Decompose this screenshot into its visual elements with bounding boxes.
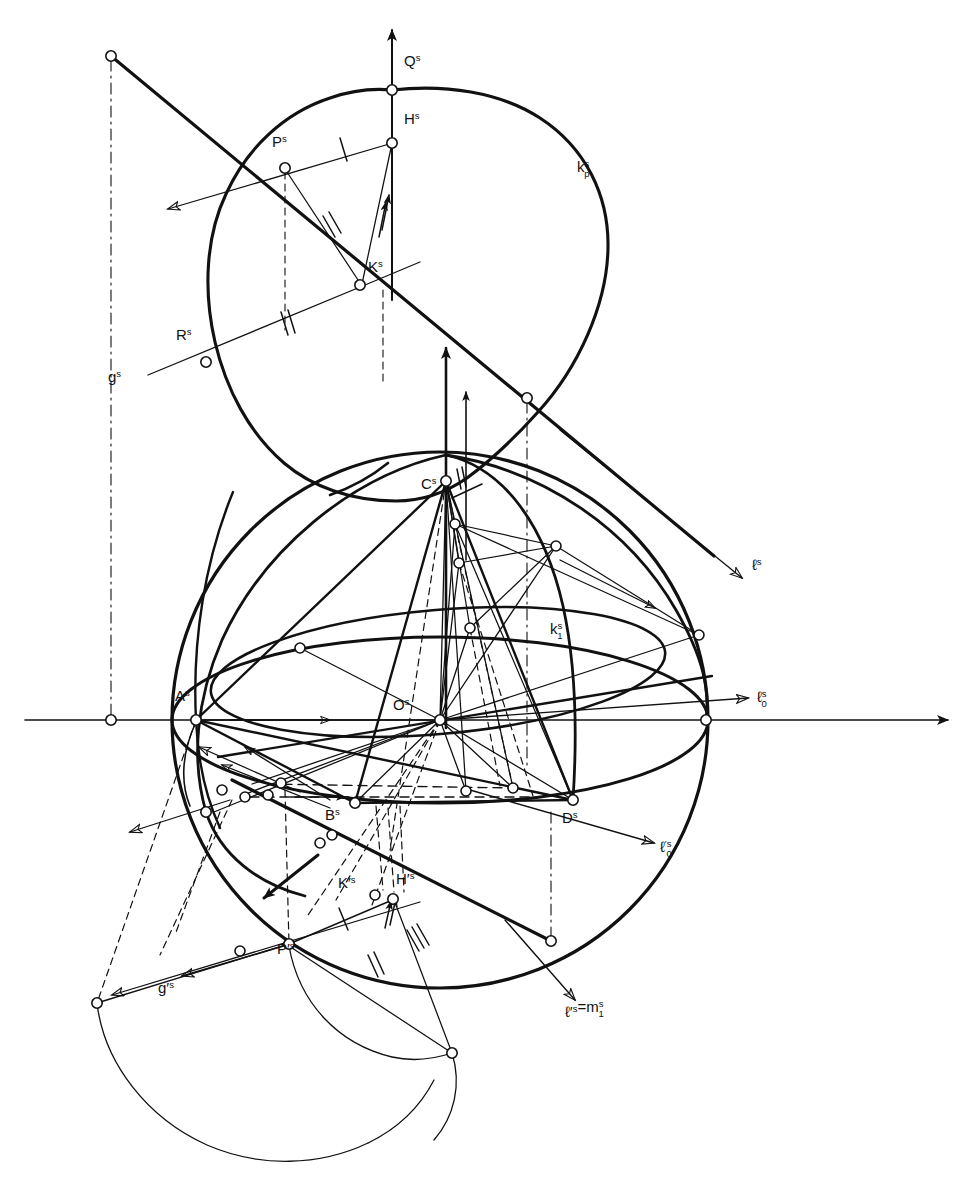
- point-q3: [276, 778, 286, 788]
- meridian-great-circle-left: [198, 455, 446, 812]
- label-lp-s-eq-m1: ℓ′s=ms1: [565, 998, 604, 1020]
- point-gpEnd: [546, 936, 556, 946]
- fan-C-11: [455, 524, 573, 800]
- label-Kp-s: K′s: [338, 874, 356, 891]
- arc-lower-outer: [97, 1003, 368, 1161]
- point-q7: [201, 807, 211, 817]
- arc-lower-inner: [289, 946, 452, 1060]
- point-q2: [461, 786, 471, 796]
- tick-triple-lower-b: [412, 927, 424, 948]
- point-B: [350, 798, 360, 808]
- label-D-s: Ds: [562, 809, 578, 826]
- point-r2: [694, 630, 704, 640]
- label-H-s: Hs: [404, 110, 420, 127]
- hatch-marks-at-C: [457, 467, 466, 489]
- line-l0-s-thick: [218, 676, 712, 757]
- point-O: [435, 715, 445, 725]
- arrow-HK-direction: [382, 195, 389, 230]
- meridian-great-circle-right: [446, 455, 707, 720]
- hidden-12: [376, 806, 383, 890]
- point-m1: [295, 643, 305, 653]
- point-P: [280, 163, 290, 173]
- label-Hp-s: H′s: [396, 870, 415, 887]
- point-C: [441, 476, 451, 486]
- label-l0p-s: ℓ′s0: [660, 838, 672, 859]
- point-c3: [465, 623, 475, 633]
- point-D: [568, 795, 578, 805]
- hidden-13: [388, 808, 394, 892]
- point-q4: [263, 790, 273, 800]
- label-O-s: Os: [393, 696, 410, 713]
- arc-left-lens: [184, 722, 196, 806]
- edge-C-B: [355, 481, 446, 803]
- label-A-s: As: [175, 687, 190, 704]
- tick-double-RK-b: [288, 310, 295, 333]
- label-l0-s: ℓs0: [757, 688, 767, 709]
- label-l-s: ℓs: [752, 556, 762, 573]
- point-q1: [508, 783, 518, 793]
- label-Pp-s: P′s: [277, 940, 295, 957]
- label-R-s: Rs: [176, 326, 192, 343]
- point-c1: [450, 519, 460, 529]
- tick-triple-lower-c: [417, 924, 429, 945]
- label-C-s: Cs: [421, 475, 437, 492]
- point-Q: [387, 85, 397, 95]
- hatch-marks-lower: [339, 908, 429, 977]
- point-Kp: [370, 890, 380, 900]
- label-K-s: Ks: [368, 258, 383, 275]
- segment-Hp-arcEnd: [394, 900, 452, 1053]
- point-c2: [454, 558, 464, 568]
- label-Q-s: Qs: [404, 52, 421, 69]
- point-Hp: [388, 894, 398, 904]
- label-B-s: Bs: [325, 806, 340, 823]
- label-P-s: Ps: [272, 133, 287, 150]
- curve-kp-s: [208, 88, 608, 501]
- hidden-10: [285, 790, 289, 944]
- point-q5: [240, 792, 250, 802]
- point-q8: [315, 838, 325, 848]
- arrow-HK-direction-2: [379, 202, 386, 237]
- point-Eright: [701, 715, 711, 725]
- label-g-s: gs: [108, 368, 121, 385]
- arrow-lprime-s: [505, 920, 575, 1000]
- point-q6: [217, 785, 227, 795]
- tick-double-RK-a: [281, 312, 288, 335]
- point-gpMid: [235, 946, 245, 956]
- arc-lower-outer-2: [368, 1080, 434, 1143]
- segment-P-K: [287, 172, 360, 283]
- point-gTopEnd: [106, 51, 116, 61]
- point-Eleft: [106, 715, 116, 725]
- ray-O-p5: [440, 628, 470, 720]
- hidden-4: [390, 481, 446, 850]
- label-kp-s: ksp: [577, 158, 590, 179]
- point-R: [201, 357, 211, 367]
- hidden-8: [97, 720, 196, 1003]
- tick-C-a: [457, 469, 461, 489]
- figure-root: Qs Hs Ps Ks Rs gs ksp Cs ℓs ks1 ℓs0 As O…: [0, 0, 971, 1185]
- point-K: [355, 280, 365, 290]
- point-H: [387, 138, 397, 148]
- point-q9: [327, 830, 337, 840]
- arrow-right-circle: [560, 560, 655, 608]
- label-k1-s: ks1: [550, 620, 563, 641]
- point-r1: [551, 541, 561, 551]
- geometry-figure: Qs Hs Ps Ks Rs gs ksp Cs ℓs ks1 ℓs0 As O…: [0, 0, 971, 1185]
- fan-C-7: [455, 524, 699, 635]
- label-gp-s: g′s: [158, 979, 174, 996]
- base-circle-ellipse: [205, 590, 670, 753]
- arc-lower-inner-2: [434, 1053, 456, 1140]
- point-A: [191, 715, 201, 725]
- point-gMid: [522, 393, 532, 403]
- point-arcEnd: [447, 1048, 457, 1058]
- point-gpLeft: [92, 998, 102, 1008]
- line-gprime-thin-2: [289, 898, 397, 944]
